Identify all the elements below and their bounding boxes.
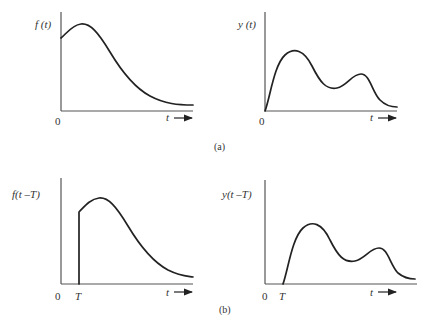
y-axis-label: f (t) [35, 18, 52, 31]
x-axis-label: t [370, 286, 374, 298]
y-axis-label: f(t –T) [12, 188, 40, 201]
origin-label: 0 [259, 115, 265, 127]
time-invariance-diagram: f (t) 0 t y (t) 0 t (a) f(t –T) 0 T t y(… [0, 0, 427, 321]
x-axis-label: t [370, 111, 374, 123]
y-axis-label: y (t) [237, 18, 256, 31]
delay-label: T [279, 290, 286, 302]
origin-label: 0 [55, 290, 61, 302]
x-axis-label: t [166, 111, 170, 123]
plot-a-input: f (t) 0 t [35, 12, 193, 127]
output-curve [265, 51, 397, 111]
delayed-input-curve [79, 198, 193, 284]
plot-a-output: y (t) 0 t [237, 12, 397, 127]
plot-b-output: y(t –T) 0 T t [221, 180, 417, 302]
delayed-output-curve [283, 224, 415, 284]
panel-b-caption: (b) [219, 304, 231, 316]
panel-a-caption: (a) [214, 141, 225, 153]
plot-b-input: f(t –T) 0 T t [12, 178, 193, 302]
x-axis-label: t [166, 286, 170, 298]
y-axis-label: y(t –T) [221, 188, 252, 201]
origin-label: 0 [55, 115, 61, 127]
delay-label: T [75, 290, 82, 302]
origin-label: 0 [262, 290, 268, 302]
input-curve [61, 24, 193, 105]
